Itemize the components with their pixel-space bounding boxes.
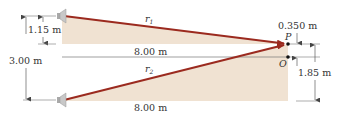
label-P-above-O: 0.350 m: [278, 21, 317, 31]
label-speaker-separation: 3.00 m: [9, 56, 42, 66]
label-point-P: P: [285, 32, 291, 42]
speaker-icon: [57, 93, 66, 107]
label-horizontal-lower: 8.00 m: [134, 103, 167, 113]
label-point-O: O: [279, 59, 287, 69]
r1-subscript: 1: [150, 18, 154, 25]
point-P: [286, 42, 290, 46]
label-P-above-lower: 1.85 m: [298, 68, 331, 78]
r2-subscript: 2: [150, 68, 154, 75]
speaker-icon: [57, 9, 66, 23]
label-r1: r1: [145, 14, 153, 25]
label-horizontal-upper: 8.00 m: [134, 47, 167, 57]
label-r2: r2: [145, 64, 153, 75]
label-upper-offset: 1.15 m: [28, 25, 61, 35]
